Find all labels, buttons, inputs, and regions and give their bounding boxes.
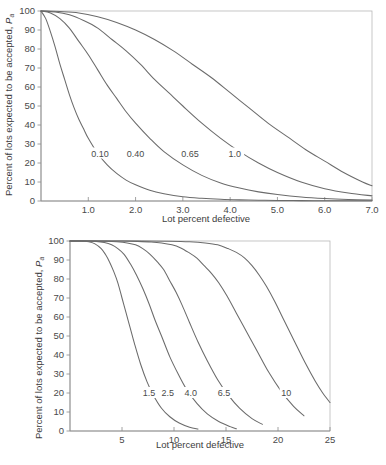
oc-curve-0.65 — [41, 11, 372, 196]
plot-axes — [41, 11, 372, 201]
y-tick-label: 0 — [30, 195, 35, 206]
y-tick-label: 10 — [24, 176, 35, 187]
oc-curve-1.0 — [41, 11, 372, 186]
svg-text:Percent of lots expected to be: Percent of lots expected to be accepted,… — [33, 257, 45, 440]
x-tick-label: 25 — [325, 434, 336, 445]
plot-axes — [70, 241, 330, 431]
curve-label-0.65: 0.65 — [181, 149, 199, 159]
oc-curve-chart-bottom: 01020304050607080901005101520251.52.54.0… — [0, 230, 386, 465]
y-tick-label: 20 — [24, 157, 35, 168]
y-tick-label: 90 — [53, 254, 64, 265]
oc-curve-figure-bottom: 01020304050607080901005101520251.52.54.0… — [0, 230, 386, 465]
y-tick-label: 80 — [53, 273, 64, 284]
curve-label-6.5: 6.5 — [218, 388, 231, 398]
y-tick-label: 0 — [59, 425, 64, 436]
y-tick-label: 50 — [53, 330, 64, 341]
y-tick-label: 10 — [53, 406, 64, 417]
oc-curve-0.40 — [41, 11, 372, 200]
y-tick-label: 40 — [24, 119, 35, 130]
oc-curve-figure-top: 01020304050607080901001.02.03.04.05.06.0… — [0, 0, 386, 230]
y-axis-title-top: Percent of lots expected to be accepted,… — [3, 14, 15, 197]
x-tick-label: 1.0 — [82, 204, 95, 215]
x-axis-title-bottom: Lot percent defective — [156, 439, 244, 450]
curve-label-0.40: 0.40 — [127, 149, 145, 159]
curve-label-10: 10 — [281, 388, 291, 398]
y-tick-label: 30 — [53, 368, 64, 379]
oc-curve-chart-top: 01020304050607080901001.02.03.04.05.06.0… — [0, 0, 386, 230]
oc-curve-2.5 — [70, 241, 236, 429]
x-tick-label: 2.0 — [129, 204, 142, 215]
x-axis-title-top: Lot percent defective — [162, 213, 250, 224]
y-tick-label: 80 — [24, 43, 35, 54]
plot-frame — [41, 11, 372, 201]
y-tick-label: 40 — [53, 349, 64, 360]
curve-label-4.0: 4.0 — [184, 388, 197, 398]
y-tick-label: 50 — [24, 100, 35, 111]
oc-curve-0.10 — [41, 11, 372, 201]
x-tick-label: 20 — [273, 434, 284, 445]
y-tick-label: 30 — [24, 138, 35, 149]
curve-label-1.0: 1.0 — [229, 149, 242, 159]
y-tick-label: 90 — [24, 24, 35, 35]
y-tick-label: 20 — [53, 387, 64, 398]
x-tick-label: 7.0 — [365, 204, 378, 215]
plot-frame — [70, 241, 330, 431]
svg-text:Percent of lots expected to be: Percent of lots expected to be accepted,… — [3, 14, 15, 197]
y-tick-label: 100 — [19, 5, 35, 16]
y-axis-title-bottom: Percent of lots expected to be accepted,… — [33, 257, 45, 440]
oc-curve-10 — [70, 241, 330, 403]
y-tick-label: 70 — [53, 292, 64, 303]
y-tick-label: 60 — [24, 81, 35, 92]
x-tick-label: 5 — [119, 434, 124, 445]
curve-label-1.5: 1.5 — [143, 388, 156, 398]
curve-label-0.10: 0.10 — [91, 149, 109, 159]
y-tick-label: 70 — [24, 62, 35, 73]
curve-label-2.5: 2.5 — [162, 388, 175, 398]
y-tick-label: 60 — [53, 311, 64, 322]
x-tick-label: 5.0 — [271, 204, 284, 215]
y-tick-label: 100 — [48, 235, 64, 246]
x-tick-label: 6.0 — [318, 204, 331, 215]
